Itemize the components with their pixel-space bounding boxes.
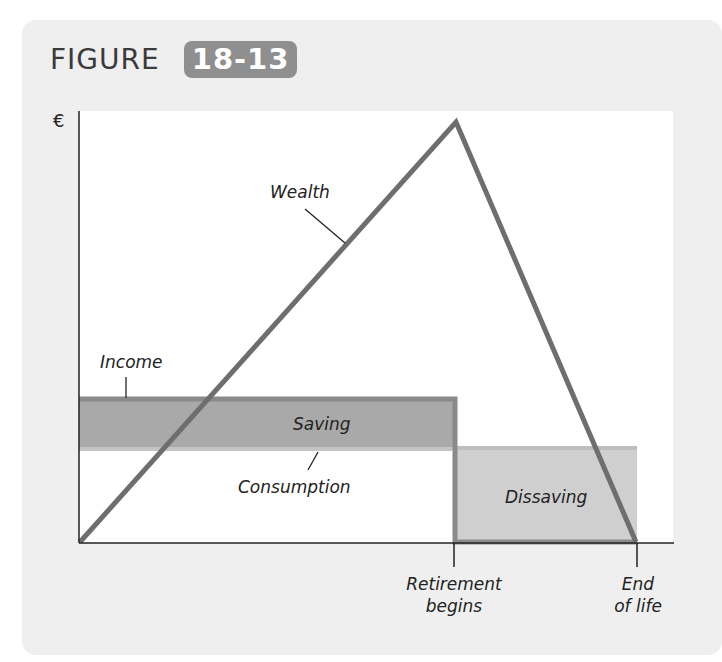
dissaving-label: Dissaving — [505, 487, 588, 507]
consumption-label: Consumption — [238, 477, 351, 497]
end-of-life-label-line1: End — [622, 574, 655, 594]
retirement-label-line1: Retirement — [406, 574, 503, 594]
income-label: Income — [100, 352, 163, 372]
end-of-life-label-line2: of life — [614, 596, 662, 616]
retirement-label-line2: begins — [426, 596, 483, 616]
saving-label: Saving — [293, 414, 351, 434]
y-axis-label: € — [53, 110, 64, 131]
saving-region — [79, 399, 455, 449]
wealth-label: Wealth — [270, 182, 330, 202]
